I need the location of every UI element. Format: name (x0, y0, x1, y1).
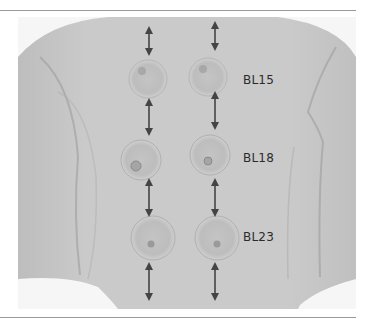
top-divider (0, 10, 356, 11)
label-bl18: BL18 (243, 151, 274, 165)
back-photo: BL15 BL18 BL23 (18, 17, 356, 309)
label-bl23: BL23 (243, 230, 274, 244)
torso-illustration (18, 17, 356, 309)
bottom-divider (0, 317, 356, 318)
torso-shape (18, 17, 356, 309)
label-bl15: BL15 (243, 73, 274, 87)
